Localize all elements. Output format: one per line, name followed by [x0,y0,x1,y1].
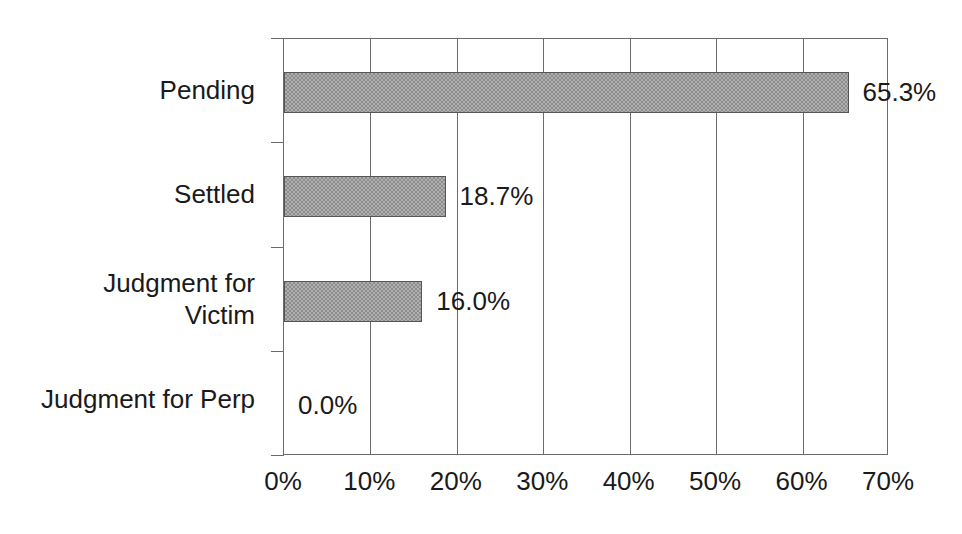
value-label-judgment-for-perp: 0.0% [284,385,357,426]
value-label-settled: 18.7% [446,176,534,217]
category-label-judgment-for-perp: Judgment for Perp [0,383,255,415]
x-axis-tick-label-70: 70% [862,466,914,497]
category-label-judgment-for-victim: Judgment for Victim [0,267,255,331]
bar-pending [284,72,849,113]
bar-row: 16.0% [284,248,887,352]
category-label-settled: Settled [0,178,255,210]
y-axis-tick [271,455,284,456]
value-label-judgment-for-victim: 16.0% [422,281,510,322]
x-axis-tick-label-20: 20% [430,466,482,497]
x-axis-tick-label-30: 30% [516,466,568,497]
x-axis-tick-label-50: 50% [689,466,741,497]
bar-judgment-for-victim [284,281,422,322]
x-axis-tick-label-40: 40% [603,466,655,497]
plot-area: 65.3% 18.7% 16.0% 0.0% [283,38,888,455]
x-axis-tick-label-0: 0% [264,466,302,497]
bar-row: 65.3% [284,39,887,143]
bar-row: 18.7% [284,143,887,247]
x-axis-tick-label-10: 10% [343,466,395,497]
bar-chart: Pending Settled Judgment for Victim Judg… [0,0,962,534]
x-axis-tick-label-60: 60% [776,466,828,497]
bar-settled [284,176,446,217]
category-label-pending: Pending [0,74,255,106]
value-label-pending: 65.3% [849,72,937,113]
bar-row: 0.0% [284,352,887,456]
